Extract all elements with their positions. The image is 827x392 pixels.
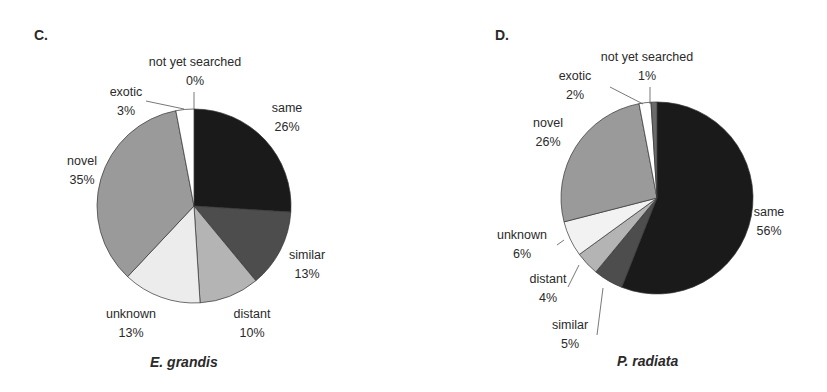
label-exotic: exotic 3% [98, 83, 154, 121]
label-similar: similar 13% [282, 246, 332, 284]
label-distant: distant 10% [226, 305, 278, 343]
label-distant: distant 4% [523, 270, 573, 308]
chart-panel-p-radiata: D. not yet searched 1% exotic 2% novel 2… [413, 0, 827, 392]
label-exotic: exotic 2% [550, 67, 600, 105]
chart-caption: P. radiata [617, 353, 678, 369]
panel-letter: C. [34, 27, 48, 43]
label-unknown: unknown 6% [491, 226, 553, 264]
label-same: same 56% [747, 203, 791, 241]
chart-caption: E. grandis [150, 354, 218, 370]
panel-letter: D. [495, 27, 509, 43]
label-same: same 26% [262, 99, 312, 137]
label-unknown: unknown 13% [100, 305, 162, 343]
pie-slices [561, 102, 753, 294]
label-not-yet-searched: not yet searched 0% [137, 53, 253, 91]
label-novel: novel 26% [528, 114, 568, 152]
chart-panel-e-grandis: C. not yet searched 0% exotic 3% same 26… [0, 0, 413, 392]
label-similar: similar 5% [545, 316, 595, 354]
label-novel: novel 35% [62, 152, 102, 190]
label-not-yet-searched: not yet searched 1% [589, 48, 705, 86]
pie-slices [97, 109, 291, 303]
